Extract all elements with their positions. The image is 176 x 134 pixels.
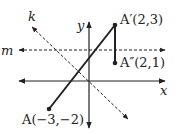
x-axis-label: x <box>160 83 168 98</box>
point-a-double-prime <box>113 61 118 66</box>
line-m-label: m <box>1 43 13 58</box>
coordinate-plane: k m y x A′(2,3) A″(2,1) A(−3,−2) <box>0 0 176 134</box>
point-a <box>47 107 52 112</box>
reflection-diagram: k m y x A′(2,3) A″(2,1) A(−3,−2) <box>0 0 176 134</box>
line-k <box>32 27 128 119</box>
point-a-prime <box>113 23 118 28</box>
point-a-double-prime-label: A″(2,1) <box>119 55 165 70</box>
line-k-label: k <box>28 9 36 24</box>
y-axis-label: y <box>76 18 85 33</box>
point-a-prime-label: A′(2,3) <box>119 12 163 27</box>
point-a-label: A(−3,−2) <box>21 112 84 127</box>
